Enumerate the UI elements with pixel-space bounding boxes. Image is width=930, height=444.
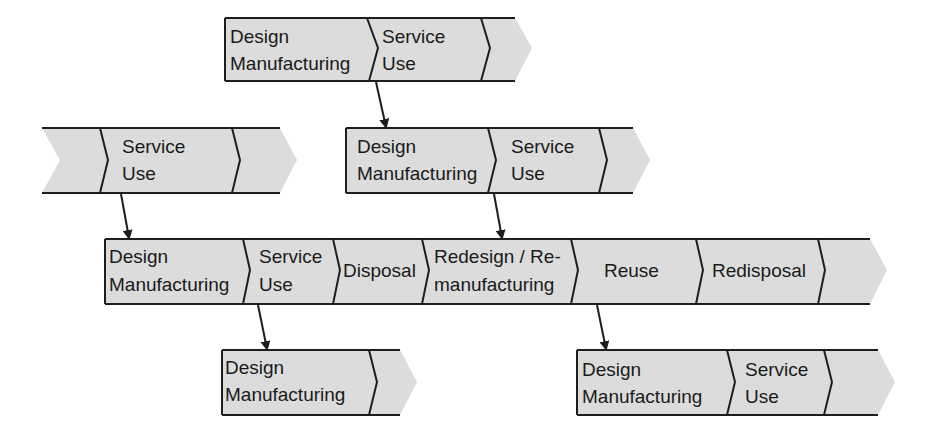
chain-top-seg-2-line2: Use	[382, 50, 416, 77]
chain-main-seg-4-line2: manufacturing	[434, 271, 554, 298]
chain-top-seg-2-line1: Service	[382, 23, 445, 50]
chain-upper-left-seg-2-line2: Use	[122, 160, 156, 187]
chain-upper-middle-seg-1-line1: Design	[357, 133, 416, 160]
chain-upper-middle-seg-2-line2: Use	[511, 160, 545, 187]
chain-bottom-right-seg-2-line2: Use	[745, 383, 779, 410]
chain-top-seg-1-line2: Manufacturing	[230, 50, 350, 77]
chain-main-seg-2-line2: Use	[259, 271, 293, 298]
chain-main-seg-3: Disposal	[343, 257, 416, 284]
chain-main-seg-2-line1: Service	[259, 243, 322, 270]
chain-upper-middle-seg-2-line1: Service	[511, 133, 574, 160]
arrow-upper-left-to-main	[121, 194, 129, 238]
chain-upper-left-seg-2-line1: Service	[122, 133, 185, 160]
chain-main-seg-1-line2: Manufacturing	[109, 271, 229, 298]
chain-bottom-left-seg-1-line1: Design	[225, 354, 284, 381]
chain-bottom-left-seg-1-line2: Manufacturing	[225, 381, 345, 408]
chain-main-seg-5: Reuse	[604, 257, 659, 284]
arrow-top-to-upper-middle	[376, 82, 386, 127]
chain-main-seg-4-line1: Redesign / Re-	[434, 243, 561, 270]
chain-bottom-right-seg-1-line2: Manufacturing	[582, 383, 702, 410]
chain-bottom-right-seg-1-line1: Design	[582, 356, 641, 383]
arrow-main-to-bottom-left	[258, 305, 267, 349]
chain-bottom-right-seg-2-line1: Service	[745, 356, 808, 383]
chain-upper-middle-seg-1-line2: Manufacturing	[357, 160, 477, 187]
arrow-upper-middle-to-main	[494, 194, 502, 238]
chain-top-seg-1-line1: Design	[230, 23, 289, 50]
arrow-main-to-bottom-right	[597, 305, 606, 349]
chain-main-seg-6: Redisposal	[712, 257, 806, 284]
chain-main-seg-1-line1: Design	[109, 243, 168, 270]
